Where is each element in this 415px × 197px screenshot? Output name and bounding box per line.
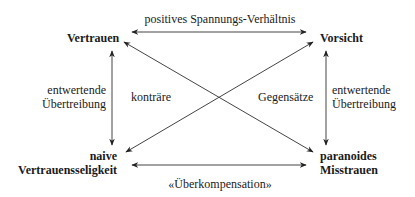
edge-label-bottom: «Überkompensation» — [140, 177, 300, 191]
edge-label-left: entwertende Übertreibung — [20, 83, 106, 111]
node-paranoides-misstrauen: paranoides Misstrauen — [320, 149, 378, 177]
node-naive-vertrauensseligkeit: naive Vertrauensseligkeit — [10, 149, 117, 177]
diagonal-label-left: konträre — [131, 90, 171, 104]
edge-label-top: positives Spannungs-Verhältnis — [140, 12, 300, 26]
node-vertrauen: Vertrauen — [67, 31, 119, 45]
node-vorsicht: Vorsicht — [320, 31, 363, 45]
edge-label-right: entwertende Übertreibung — [332, 83, 396, 111]
diagonal-label-right: Gegensätze — [258, 90, 313, 104]
